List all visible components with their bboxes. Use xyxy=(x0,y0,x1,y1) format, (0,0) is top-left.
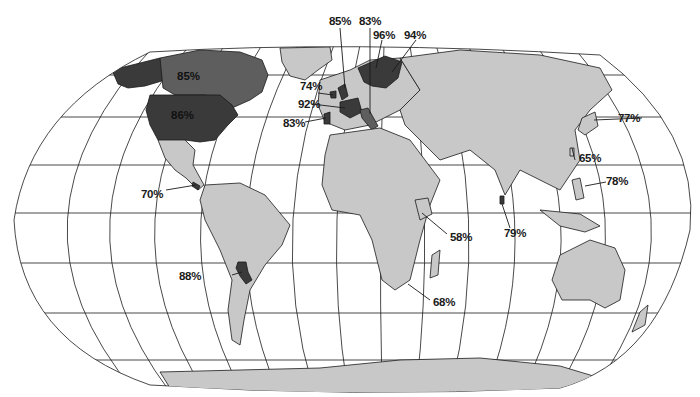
label-sweden: 96% xyxy=(373,29,395,41)
label-taiwan: 65% xyxy=(579,152,601,164)
antarctica xyxy=(160,358,600,394)
alaska xyxy=(112,58,165,88)
australia xyxy=(552,240,625,308)
sri-lanka[interactable] xyxy=(500,196,504,204)
label-finland: 94% xyxy=(404,29,426,41)
label-central-america: 70% xyxy=(141,188,163,200)
label-paraguay: 88% xyxy=(179,270,201,282)
label-uk: 85% xyxy=(329,15,351,27)
label-philippines: 78% xyxy=(606,175,628,187)
label-kenya: 58% xyxy=(450,231,472,243)
world-map: 85% 86% 70% 88% 74% 85% 92% 83% 83% 96% … xyxy=(0,0,700,397)
label-switzerland-italy: 83% xyxy=(359,15,381,27)
label-canada: 85% xyxy=(177,70,200,82)
label-usa: 86% xyxy=(171,109,194,121)
label-france: 92% xyxy=(298,98,320,110)
philippines[interactable] xyxy=(572,178,584,200)
madagascar xyxy=(430,250,440,278)
label-ireland: 74% xyxy=(300,80,322,92)
label-south-africa: 68% xyxy=(433,296,455,308)
label-sri-lanka: 79% xyxy=(504,227,526,239)
label-japan: 77% xyxy=(618,112,640,124)
label-portugal: 83% xyxy=(283,117,305,129)
